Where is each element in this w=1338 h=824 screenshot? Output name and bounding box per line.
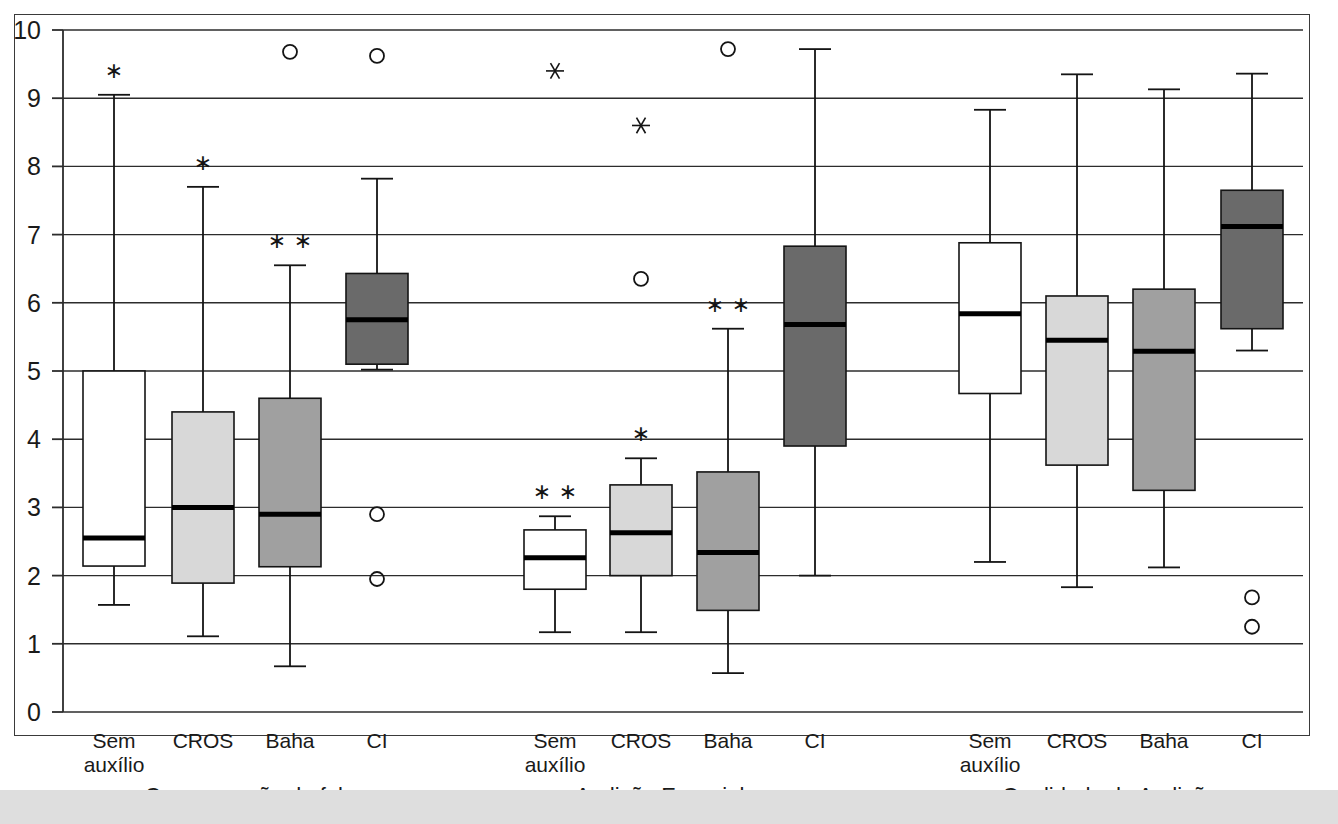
- x-tick-label: Sem: [533, 729, 576, 752]
- x-tick-label: CROS: [173, 729, 234, 752]
- x-tick-label: Sem: [968, 729, 1011, 752]
- x-tick-label: CROS: [611, 729, 672, 752]
- y-axis-labels: 109876543210: [13, 16, 41, 726]
- x-tick-label: Sem: [92, 729, 135, 752]
- x-tick-label: Baha: [265, 729, 314, 752]
- x-tick-label: CROS: [1047, 729, 1108, 752]
- x-tick-label: Baha: [703, 729, 752, 752]
- x-tick-label: CI: [805, 729, 826, 752]
- x-tick-label-line2: auxílio: [960, 753, 1021, 776]
- y-tick-label: 5: [27, 357, 41, 385]
- labels-layer: 109876543210 SemauxílioCROSBahaCISemauxí…: [0, 0, 1338, 824]
- y-tick-label: 3: [27, 493, 41, 521]
- x-axis-labels: SemauxílioCROSBahaCISemauxílioCROSBahaCI…: [84, 729, 1263, 776]
- y-tick-label: 7: [27, 221, 41, 249]
- x-tick-label: CI: [1242, 729, 1263, 752]
- boxplot-figure: ∗∗∗∗∗∗∗∗∗ 109876543210 SemauxílioCROSBah…: [0, 0, 1338, 824]
- x-tick-label: Baha: [1139, 729, 1188, 752]
- y-tick-label: 1: [27, 630, 41, 658]
- y-tick-label: 2: [27, 562, 41, 590]
- y-tick-label: 10: [13, 16, 41, 44]
- y-tick-label: 0: [27, 698, 41, 726]
- y-tick-label: 6: [27, 289, 41, 317]
- bottom-band: [0, 790, 1338, 824]
- x-tick-label-line2: auxílio: [84, 753, 145, 776]
- y-tick-label: 4: [27, 425, 41, 453]
- x-tick-label-line2: auxílio: [525, 753, 586, 776]
- y-tick-label: 8: [27, 152, 41, 180]
- y-tick-label: 9: [27, 84, 41, 112]
- x-tick-label: CI: [367, 729, 388, 752]
